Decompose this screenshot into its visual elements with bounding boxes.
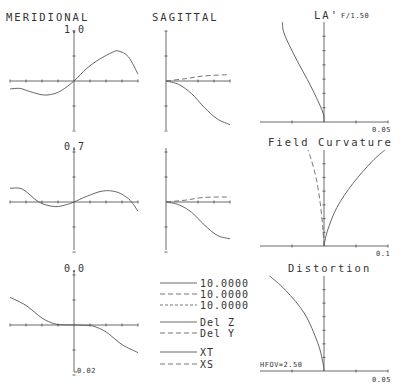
right-axes (260, 22, 388, 373)
legend: 10.0000 10.0000 10.0000 Del Z Del Y XT X… (160, 278, 249, 370)
curve (282, 22, 324, 122)
legend-wavelength-1: 10.0000 (200, 278, 249, 289)
legend-wavelength-2: 10.0000 (200, 289, 249, 300)
fc-scale-label: 0.1 (376, 250, 390, 258)
fnumber-label: F/1.50 (341, 12, 369, 20)
sagittal-title: SAGITTAL (152, 11, 219, 23)
legend-del-y: Del Y (200, 328, 235, 339)
legend-xs: XS (200, 359, 214, 370)
ray-scale-label: 0.02 (77, 367, 96, 375)
legend-xt: XT (200, 347, 214, 358)
field-label-2: 0.7 (64, 141, 85, 152)
field-curvature-title: Field Curvature (268, 136, 393, 148)
curve (270, 276, 324, 371)
plot-curves (10, 22, 385, 371)
curve (166, 202, 230, 239)
sagittal-axes (165, 31, 231, 252)
optical-analysis-plots: MERIDIONAL SAGITTAL LA' F/1.50 Field Cur… (0, 0, 406, 388)
legend-del-z: Del Z (200, 317, 235, 328)
distortion-scale-label: 0.05 (372, 376, 391, 384)
meridional-axes (10, 30, 138, 375)
la-scale-label: 0.05 (372, 126, 391, 134)
meridional-title: MERIDIONAL (6, 11, 89, 23)
curve (324, 150, 385, 246)
field-label-3: 0.0 (64, 263, 85, 274)
field-label-1: 1.0 (64, 24, 85, 35)
distortion-title: Distortion (288, 262, 371, 274)
legend-wavelength-3: 10.0000 (200, 300, 249, 311)
curve (308, 150, 324, 246)
la-title: LA' (314, 9, 339, 21)
curve (166, 81, 230, 125)
hfov-label: HFOV=2.50 (260, 361, 302, 369)
